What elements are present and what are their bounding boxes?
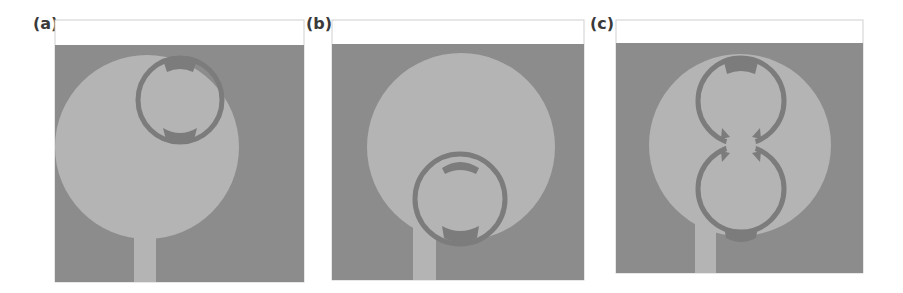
- panel-c: [616, 20, 863, 273]
- radiating-patch: [367, 53, 555, 241]
- panel-b: [332, 20, 584, 280]
- antenna-figure: [0, 0, 903, 293]
- panel-a: [55, 20, 304, 282]
- radiating-patch: [55, 55, 239, 239]
- center-disc: [726, 130, 756, 160]
